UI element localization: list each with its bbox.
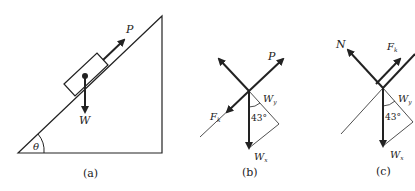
push-arrow xyxy=(249,59,283,91)
angle-arc xyxy=(249,103,260,107)
fk-label: Fk xyxy=(209,111,221,123)
angle-label: 43° xyxy=(251,113,267,123)
panel-c: N Fk Wy 43° Wx (c) xyxy=(335,38,415,178)
caption-c: (c) xyxy=(376,165,391,178)
p-label: P xyxy=(267,50,276,63)
free-body-diagrams: θ P W (a) P Fk Wy 43° Wx (b) N Fk xyxy=(0,0,415,191)
friction-arrow xyxy=(376,59,400,84)
friction-arrow xyxy=(227,91,249,112)
wx-label: Wx xyxy=(254,151,268,163)
push-arrow xyxy=(103,40,124,60)
caption-b: (b) xyxy=(242,166,258,179)
p-label: P xyxy=(125,23,134,36)
wx-component-line xyxy=(249,124,279,148)
incline-triangle xyxy=(18,16,162,153)
panel-b: P Fk Wy 43° Wx (b) xyxy=(200,50,283,179)
caption-a: (a) xyxy=(83,167,98,180)
fk-label: Fk xyxy=(386,41,398,53)
theta-label: θ xyxy=(33,141,39,152)
n-label: N xyxy=(335,38,346,51)
panel-a: θ P W (a) xyxy=(18,16,162,180)
wy-label: Wy xyxy=(263,93,277,106)
angle-label: 43° xyxy=(385,112,401,122)
angle-arc xyxy=(383,101,395,106)
w-label: W xyxy=(79,114,92,127)
wx-component-line xyxy=(383,122,413,146)
wx-label: Wx xyxy=(390,149,404,161)
wy-label: Wy xyxy=(398,93,412,106)
incline-line xyxy=(341,88,383,134)
normal-arrow xyxy=(219,59,249,91)
